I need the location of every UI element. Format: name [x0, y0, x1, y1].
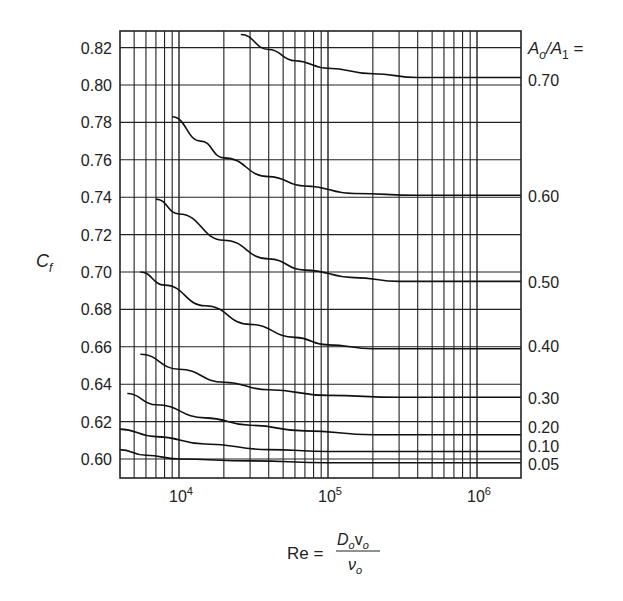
y-tick-label: 0.82	[81, 40, 112, 57]
y-tick-label: 0.72	[81, 227, 112, 244]
y-tick-label: 0.70	[81, 264, 112, 281]
x-tick-label: 106	[467, 485, 491, 505]
curves	[120, 35, 521, 463]
y-tick-label: 0.64	[81, 376, 112, 393]
y-tick-labels: 0.600.620.640.660.680.700.720.740.760.78…	[81, 40, 112, 468]
x-tick-labels: 104105106	[169, 485, 491, 505]
series-label: 0.40	[528, 338, 559, 355]
series-label: 0.05	[528, 456, 559, 473]
series-labels: 0.700.600.500.400.300.200.100.05	[528, 72, 559, 473]
legend-title: Ao/A1 =	[527, 39, 584, 62]
x-axis-label: Re = Dovo νo	[287, 531, 380, 576]
curve-ratio-0.30	[140, 354, 521, 397]
y-tick-label: 0.66	[81, 339, 112, 356]
curve-ratio-0.40	[140, 272, 521, 349]
curve-ratio-0.60	[172, 117, 521, 196]
svg-text:νo: νo	[348, 556, 362, 576]
x-tick-label: 105	[318, 485, 342, 505]
series-label: 0.60	[528, 188, 559, 205]
curve-ratio-0.50	[156, 199, 521, 281]
y-tick-label: 0.78	[81, 114, 112, 131]
series-label: 0.50	[528, 274, 559, 291]
curve-ratio-0.20	[127, 394, 521, 435]
x-tick-label: 104	[169, 485, 193, 505]
y-tick-label: 0.62	[81, 414, 112, 431]
series-label: 0.10	[528, 438, 559, 455]
y-tick-label: 0.74	[81, 189, 112, 206]
svg-text:Re =: Re =	[287, 544, 323, 563]
discharge-coefficient-chart: 0.600.620.640.660.680.700.720.740.760.78…	[0, 0, 623, 601]
y-tick-label: 0.80	[81, 77, 112, 94]
series-label: 0.30	[528, 390, 559, 407]
series-label: 0.70	[528, 72, 559, 89]
y-axis-label: Cf	[36, 251, 54, 275]
series-label: 0.20	[528, 419, 559, 436]
y-tick-label: 0.68	[81, 301, 112, 318]
y-tick-label: 0.76	[81, 152, 112, 169]
y-tick-label: 0.60	[81, 451, 112, 468]
curve-ratio-0.10	[120, 429, 521, 451]
svg-text:Dovo: Dovo	[337, 531, 369, 551]
